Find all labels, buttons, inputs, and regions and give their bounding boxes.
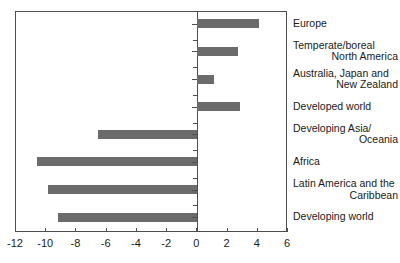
x-tick — [75, 228, 76, 232]
axis-tick — [192, 79, 197, 80]
x-tick-label: -8 — [71, 237, 81, 249]
axis-tick — [192, 162, 197, 163]
axis-tick-minor — [193, 40, 198, 41]
category-label-line: Oceania — [293, 134, 398, 146]
category-label: Europe — [293, 18, 398, 30]
x-tick-label: -12 — [7, 237, 23, 249]
axis-tick — [192, 217, 197, 218]
x-tick — [227, 228, 228, 232]
x-tick — [287, 228, 288, 232]
category-label: Developing Asia/Oceania — [293, 123, 398, 146]
category-label-line: Europe — [293, 18, 398, 30]
axis-tick — [192, 24, 197, 25]
axis-tick — [192, 134, 197, 135]
category-label: Developing world — [293, 211, 398, 223]
axis-tick — [192, 51, 197, 52]
x-tick — [257, 228, 258, 232]
x-tick-label: -6 — [101, 237, 111, 249]
axis-tick-minor — [193, 95, 198, 96]
x-tick-label: -2 — [161, 237, 171, 249]
x-tick-label: 2 — [223, 237, 229, 249]
category-label-line: North America — [293, 51, 398, 63]
axis-tick-minor — [193, 67, 198, 68]
x-tick-label: -10 — [37, 237, 53, 249]
category-label: Australia, Japan andNew Zealand — [293, 68, 398, 91]
x-tick — [136, 228, 137, 232]
category-label-line: Latin America and the — [293, 178, 398, 190]
axis-tick-minor — [193, 123, 198, 124]
axis-tick — [192, 107, 197, 108]
x-tick-label: 0 — [193, 237, 199, 249]
category-label-line: Developed world — [293, 101, 398, 113]
x-tick — [45, 228, 46, 232]
plot-area — [15, 11, 287, 232]
category-label: Latin America and theCaribbean — [293, 178, 398, 201]
x-tick — [166, 228, 167, 232]
category-label: Developed world — [293, 101, 398, 113]
x-tick-label: 6 — [284, 237, 290, 249]
x-tick — [196, 228, 197, 232]
category-label-line: New Zealand — [293, 79, 398, 91]
axis-tick-minor — [193, 178, 198, 179]
x-tick-label: -4 — [131, 237, 141, 249]
category-label: Africa — [293, 156, 398, 168]
axis-tick-minor — [193, 205, 198, 206]
x-tick-label: 4 — [254, 237, 260, 249]
category-label-line: Caribbean — [293, 190, 398, 202]
axis-tick — [192, 190, 197, 191]
x-tick — [106, 228, 107, 232]
category-label-line: Africa — [293, 156, 398, 168]
bar-chart: -12-10-8-6-4-20246 EuropeTemperate/borea… — [0, 0, 400, 263]
category-label: Temperate/borealNorth America — [293, 40, 398, 63]
x-tick — [15, 228, 16, 232]
axis-tick-minor — [193, 150, 198, 151]
axis-tick-layer — [16, 12, 286, 231]
category-label-line: Developing world — [293, 211, 398, 223]
